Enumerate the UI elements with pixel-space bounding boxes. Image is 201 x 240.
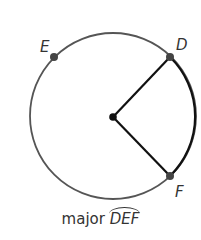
caption-arc-name: DEF — [110, 210, 140, 228]
label-e: E — [40, 38, 50, 56]
center-point — [109, 113, 117, 121]
arc-caption: major DEF — [0, 210, 201, 228]
caption-prefix: major — [62, 210, 105, 228]
label-f: F — [175, 183, 184, 201]
circle-diagram: E D F — [0, 0, 201, 240]
point-d — [166, 53, 174, 61]
minor-arc-df — [170, 57, 195, 176]
point-f — [166, 172, 174, 180]
point-e — [50, 53, 58, 61]
radius-to-f — [113, 117, 170, 176]
radius-to-d — [113, 57, 170, 117]
label-d: D — [176, 36, 188, 54]
